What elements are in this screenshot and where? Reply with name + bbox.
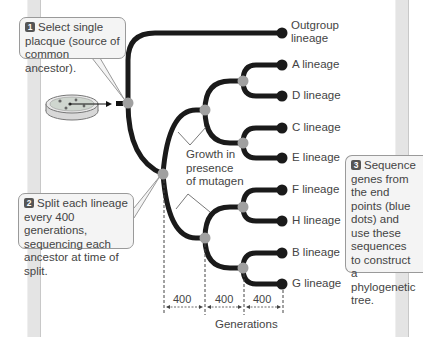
lineage-label-g: G lineage <box>292 277 341 290</box>
mutagen-line2: presence <box>186 162 244 176</box>
step-number-badge: 3 <box>351 160 361 170</box>
lineage-label-b: B lineage <box>292 246 340 259</box>
generations-axis-label: Generations <box>215 318 278 330</box>
outgroup-label-line1: Outgroup <box>291 19 339 32</box>
interval-label-1: 400 <box>173 293 191 305</box>
step-2-callout: 2Split each lineage every 400 generation… <box>18 193 134 249</box>
mutagen-line3: of mutagen <box>186 175 244 189</box>
lineage-label-d: D lineage <box>292 89 341 102</box>
step-1-callout: 1Select single placque (source of common… <box>19 17 126 59</box>
lineage-label-h: H lineage <box>292 214 341 227</box>
step-number-badge: 1 <box>25 22 35 32</box>
lineage-label-a: A lineage <box>292 58 339 71</box>
step-3-callout: 3Sequence genes from the end points (blu… <box>345 155 423 273</box>
step-3-text: Sequence genes from the end points (blue… <box>351 159 416 306</box>
mutagen-annotation: Growth in presence of mutagen <box>186 148 244 189</box>
outgroup-label-line2: lineage <box>291 32 339 45</box>
lineage-label-c: C lineage <box>292 121 341 134</box>
mutagen-line1: Growth in <box>186 148 244 162</box>
interval-label-2: 400 <box>215 293 233 305</box>
lineage-label-f: F lineage <box>292 183 339 196</box>
lineage-label-e: E lineage <box>292 151 340 164</box>
interval-label-3: 400 <box>253 293 271 305</box>
outgroup-label: Outgroup lineage <box>291 19 339 45</box>
lineage-end-dots <box>277 28 288 290</box>
petri-dish-icon <box>46 95 123 120</box>
step-number-badge: 2 <box>24 198 34 208</box>
